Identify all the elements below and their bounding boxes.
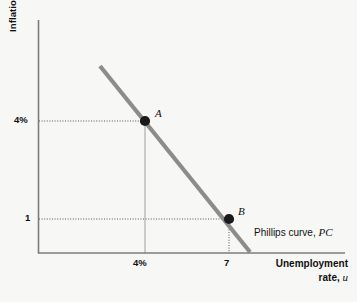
y-tick-label-lower: 1 [25, 213, 30, 223]
phillips-curve-line [100, 66, 250, 252]
data-point-b [224, 214, 234, 224]
x-tick-label-left: 4% [133, 258, 147, 268]
x-axis-variable-symbol: u [343, 271, 349, 283]
y-axis-title: Inflation rate, π [8, 18, 18, 32]
data-point-b-label: B [238, 206, 245, 218]
chart-canvas [0, 0, 357, 302]
x-axis-title-line-1: Unemployment [243, 258, 348, 271]
curve-annotation: Phillips curve, PC [254, 227, 333, 239]
data-point-a-label: A [155, 108, 162, 120]
x-axis-title-line-2: rate, u [243, 271, 348, 285]
phillips-curve-figure: Inflation rate, π Unemployment rate, u 4… [0, 0, 357, 302]
x-axis-title: Unemployment rate, u [243, 258, 348, 284]
x-tick-label-right: 7 [224, 258, 229, 268]
x-axis-title-line-2-text: rate, [319, 272, 343, 283]
y-tick-label-upper: 4% [14, 115, 28, 125]
curve-annotation-text: Phillips curve, [254, 227, 318, 238]
curve-annotation-symbol: PC [318, 226, 332, 238]
data-point-a [140, 116, 150, 126]
